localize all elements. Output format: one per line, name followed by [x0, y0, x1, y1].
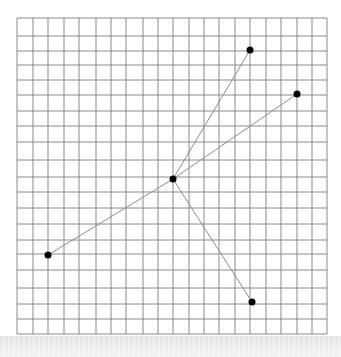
bottom-gradient-strip: [0, 336, 341, 357]
point-center: [170, 176, 177, 183]
point-lower-left: [45, 252, 52, 259]
point-upper-right-high: [247, 47, 254, 54]
point-lower-right: [249, 299, 256, 306]
point-upper-right-far: [294, 91, 301, 98]
grid-diagram: [0, 0, 341, 357]
